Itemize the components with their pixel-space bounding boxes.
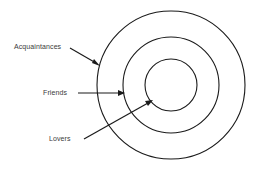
friends-ring <box>123 37 219 133</box>
acquaintances-arrow-line <box>70 48 96 63</box>
acquaintances-arrow-head <box>92 59 100 66</box>
lovers-arrow <box>84 100 153 139</box>
lovers-ring <box>145 59 197 111</box>
lovers-arrow-line <box>84 103 148 139</box>
diagram-canvas <box>0 0 259 169</box>
friends-label: Friends <box>43 89 67 96</box>
friends-arrow <box>78 90 125 96</box>
acquaintances-label: Acquaintances <box>14 43 61 50</box>
venn-concentric-diagram: Acquaintances Friends Lovers <box>0 0 259 169</box>
lovers-label: Lovers <box>49 135 71 142</box>
acquaintances-arrow <box>70 48 100 66</box>
acquaintances-ring <box>97 11 245 159</box>
